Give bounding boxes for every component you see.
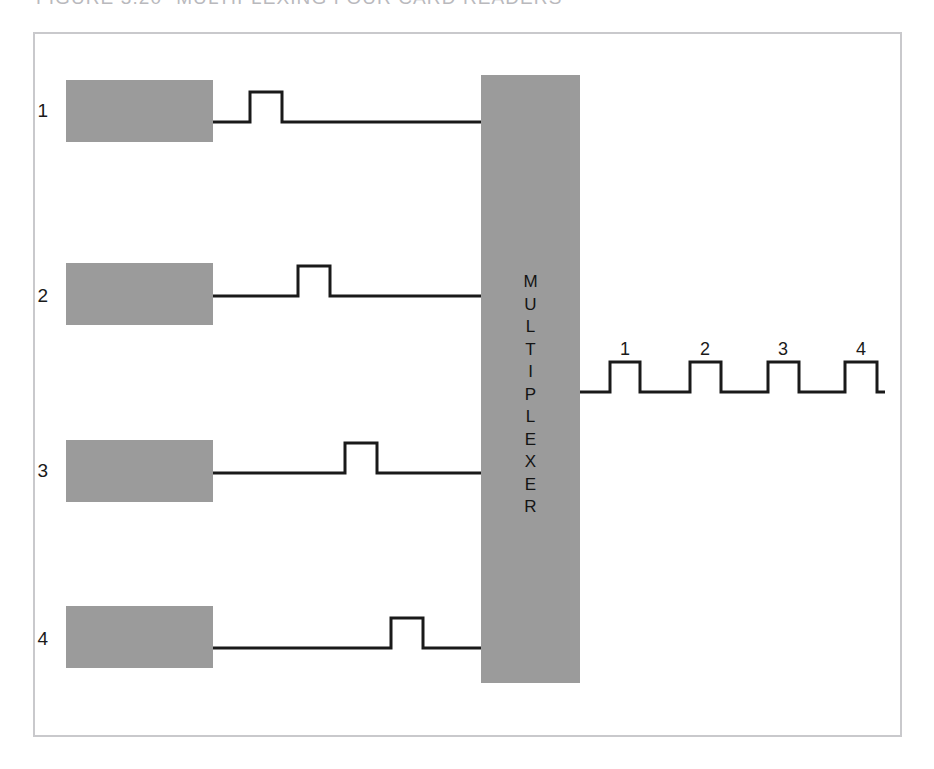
multiplexer-letter-5: P [481, 384, 580, 407]
multiplexer-letter-8: X [481, 451, 580, 474]
output-pulse-index-1: 1 [613, 339, 637, 360]
card-reader-block-4[interactable] [66, 606, 213, 668]
multiplexer-letter-2: L [481, 316, 580, 339]
input-signal-waveform-4 [213, 618, 481, 648]
multiplexer-block[interactable]: MULTIPLEXER [481, 75, 580, 683]
card-reader-block-1[interactable] [66, 80, 213, 142]
input-signal-waveform-1 [213, 92, 481, 122]
card-reader-block-3[interactable] [66, 440, 213, 502]
output-pulse-index-3: 3 [771, 339, 795, 360]
multiplexer-letter-10: R [481, 496, 580, 519]
output-signal-waveform [580, 362, 885, 392]
reader-index-3: 3 [26, 460, 48, 482]
input-signal-waveform-2 [213, 266, 481, 296]
output-pulse-index-4: 4 [849, 339, 873, 360]
reader-index-2: 2 [26, 285, 48, 307]
multiplexer-letter-7: E [481, 429, 580, 452]
multiplexer-letter-4: I [481, 361, 580, 384]
multiplexer-letter-1: U [481, 294, 580, 317]
multiplexer-label: MULTIPLEXER [481, 271, 580, 519]
output-pulse-index-2: 2 [693, 339, 717, 360]
multiplexer-letter-3: T [481, 339, 580, 362]
multiplexer-letter-0: M [481, 271, 580, 294]
multiplexer-letter-9: E [481, 474, 580, 497]
input-signal-waveform-3 [213, 443, 481, 473]
card-speckle-texture-group [71, 86, 207, 665]
card-reader-block-2[interactable] [66, 263, 213, 325]
reader-index-4: 4 [26, 628, 48, 650]
reader-index-1: 1 [26, 100, 48, 122]
multiplexer-letter-6: L [481, 406, 580, 429]
